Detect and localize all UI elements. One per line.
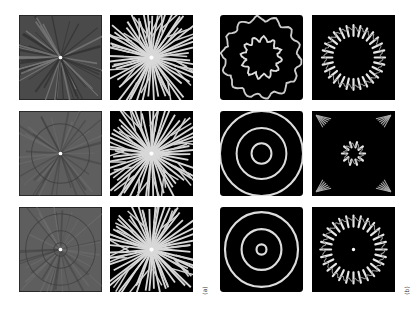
subfigure-label-b: (b) [403, 286, 410, 295]
panel-a-r3-c2 [110, 207, 193, 292]
panel-b-r2-c1 [220, 111, 303, 196]
panel-a-r3-c1 [19, 207, 102, 292]
panel-a-r2-c2 [110, 111, 193, 196]
panel-a-r1-c1 [19, 15, 102, 100]
panel-a-r2-c1 [19, 111, 102, 196]
panel-b-r1-c2 [312, 15, 395, 100]
subfigure-label-a: (a) [201, 286, 208, 294]
panel-b-r1-c1 [220, 15, 303, 100]
panel-b-r3-c1 [220, 207, 303, 292]
panel-b-r3-c2 [312, 207, 395, 292]
panel-b-r2-c2 [312, 111, 395, 196]
panel-a-r1-c2 [110, 15, 193, 100]
